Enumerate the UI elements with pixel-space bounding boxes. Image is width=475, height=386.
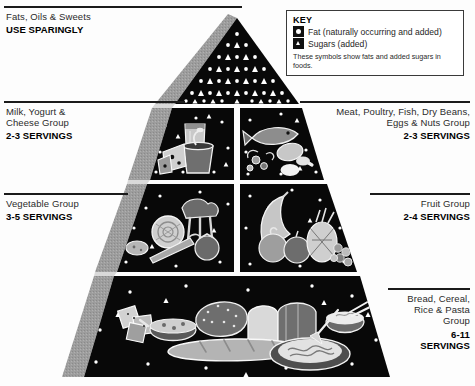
fats-group-name: Fats, Oils & Sweets	[6, 11, 186, 22]
milk-group-servings: 2-3 SERVINGS	[6, 130, 136, 141]
label-milk-yogurt-cheese: Milk, Yogurt & Cheese Group 2-3 SERVINGS	[6, 106, 136, 142]
meat-label-rule	[300, 101, 470, 103]
bread-group-servings: 6-11 SERVINGS	[370, 329, 470, 351]
food-pyramid-figure: Fats, Oils & Sweets USE SPARINGLY Milk, …	[0, 0, 475, 386]
bread-label-rule	[388, 288, 470, 290]
fruit-group-servings: 2-4 SERVINGS	[352, 211, 470, 222]
label-meat-poultry-fish: Meat, Poultry, Fish, Dry Beans, Eggs & N…	[300, 106, 470, 142]
key-fat-label: Fat (naturally occurring and added)	[308, 27, 442, 37]
fruit-label-rule	[370, 193, 470, 195]
key-note: These symbols show fats and added sugars…	[293, 52, 457, 70]
fruit-group-name: Fruit Group	[352, 198, 470, 209]
fat-symbol-icon	[293, 26, 304, 37]
key-row-fat: Fat (naturally occurring and added)	[293, 26, 457, 37]
fats-group-servings: USE SPARINGLY	[6, 24, 186, 35]
seeded-loaf-illustration	[196, 302, 247, 336]
tier-bread-cereal-rice-pasta	[84, 276, 390, 377]
key-legend-box: KEY Fat (naturally occurring and added) …	[286, 10, 464, 76]
key-row-sugars: Sugars (added)	[293, 38, 457, 49]
vegetable-group-name: Vegetable Group	[6, 198, 126, 209]
fats-label-rule	[4, 6, 242, 8]
key-title: KEY	[293, 15, 457, 25]
key-sugar-label: Sugars (added)	[308, 39, 367, 49]
milk-group-name: Milk, Yogurt & Cheese Group	[6, 106, 136, 128]
label-vegetable-group: Vegetable Group 3-5 SERVINGS	[6, 198, 126, 222]
potato-illustration	[126, 241, 148, 255]
vegetable-label-rule	[4, 193, 128, 195]
vegetable-group-servings: 3-5 SERVINGS	[6, 211, 126, 222]
label-fats-oils-sweets: Fats, Oils & Sweets USE SPARINGLY	[6, 11, 186, 35]
pasta-plate-illustration	[270, 338, 350, 370]
tier-fruit-group	[240, 184, 357, 272]
bread-group-name: Bread, Cereal, Rice & Pasta Group	[370, 293, 470, 327]
meat-group-servings: 2-3 SERVINGS	[300, 130, 470, 141]
meat-group-name: Meat, Poultry, Fish, Dry Beans, Eggs & N…	[300, 106, 470, 128]
milk-label-rule	[4, 101, 185, 103]
label-bread-cereal-rice-pasta: Bread, Cereal, Rice & Pasta Group 6-11 S…	[370, 293, 470, 351]
label-fruit-group: Fruit Group 2-4 SERVINGS	[352, 198, 470, 222]
sugar-symbol-icon	[293, 38, 304, 49]
